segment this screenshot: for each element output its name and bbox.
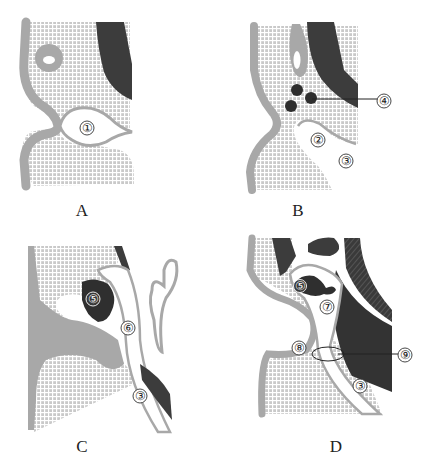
marker-label: ⑦	[322, 300, 333, 314]
marker-label: ③	[135, 389, 146, 403]
marker-3-c: ③	[133, 389, 147, 403]
blob-3-b	[285, 100, 297, 112]
panel-c: ⑤ ⑥ ③ C	[28, 246, 177, 456]
marker-label: ⑨	[400, 348, 411, 362]
panel-label-c: C	[76, 437, 87, 456]
marker-label: ⑥	[123, 321, 134, 335]
otic-lumen-a	[43, 56, 55, 64]
marker-9: ⑨	[398, 348, 412, 362]
marker-1: ①	[80, 121, 94, 135]
marker-label: ⑧	[294, 341, 305, 355]
marker-4: ④	[377, 94, 391, 108]
diagram-canvas: ① A ④ ② ③ B	[0, 0, 429, 469]
marker-label: ①	[82, 121, 93, 135]
dark-block-2-d	[308, 238, 339, 256]
marker-8: ⑧	[292, 341, 306, 355]
panel-label-d: D	[330, 437, 342, 456]
external-ear-c	[150, 260, 176, 352]
panel-d: ⑨ ⑤ ⑦ ⑧ ③ D	[250, 238, 412, 456]
marker-2: ②	[311, 133, 325, 147]
marker-3-d: ③	[353, 379, 367, 393]
marker-label: ⑤	[88, 292, 99, 306]
marker-label: ③	[341, 154, 352, 168]
marker-5-d: ⑤	[294, 279, 307, 293]
panel-label-b: B	[292, 201, 303, 220]
blob-1-b	[291, 84, 303, 96]
panel-b: ④ ② ③ B	[249, 22, 391, 220]
neural-lumen-b	[294, 51, 301, 69]
marker-label: ②	[313, 133, 324, 147]
marker-5-c: ⑤	[86, 292, 100, 306]
marker-label: ④	[379, 94, 390, 108]
marker-label: ⑤	[295, 279, 306, 293]
marker-7: ⑦	[320, 300, 334, 314]
marker-6: ⑥	[121, 321, 135, 335]
blob-2-b	[305, 92, 317, 104]
panel-a: ① A	[22, 22, 134, 220]
panel-label-a: A	[76, 201, 89, 220]
marker-3-b: ③	[339, 154, 353, 168]
marker-label: ③	[355, 379, 366, 393]
